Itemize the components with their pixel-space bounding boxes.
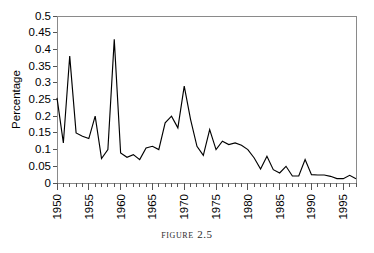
y-tick-label: 0.2 xyxy=(35,110,51,122)
line-chart: 00.050.10.150.20.250.30.350.40.450.5 195… xyxy=(0,0,374,225)
y-tick-label: 0 xyxy=(45,177,51,189)
x-tick-label: 1985 xyxy=(274,194,286,220)
x-tick-label: 1975 xyxy=(210,194,222,220)
x-tick-label: 1990 xyxy=(305,194,317,220)
y-axis-tick-marks xyxy=(53,16,57,183)
y-axis-tick-labels: 00.050.10.150.20.250.30.350.40.450.5 xyxy=(29,10,52,189)
x-tick-label: 1980 xyxy=(242,194,254,220)
x-tick-label: 1960 xyxy=(115,194,127,220)
y-tick-label: 0.5 xyxy=(35,10,51,22)
y-tick-label: 0.15 xyxy=(29,126,51,138)
x-tick-label: 1970 xyxy=(178,194,190,220)
x-axis-tick-labels: 1950195519601965197019751980198519901995 xyxy=(51,194,349,220)
y-tick-label: 0.25 xyxy=(29,93,51,105)
y-axis-title: Percentage xyxy=(10,70,22,129)
data-series-line xyxy=(57,39,356,178)
y-tick-label: 0.05 xyxy=(29,160,51,172)
chart-plot-area: 00.050.10.150.20.250.30.350.40.450.5 195… xyxy=(0,0,374,225)
figure-container: 00.050.10.150.20.250.30.350.40.450.5 195… xyxy=(0,0,374,253)
x-tick-label: 1995 xyxy=(337,194,349,220)
x-tick-label: 1955 xyxy=(83,194,95,220)
y-tick-label: 0.3 xyxy=(35,76,51,88)
x-tick-label: 1965 xyxy=(146,194,158,220)
y-tick-label: 0.4 xyxy=(35,43,52,55)
y-tick-label: 0.45 xyxy=(29,26,51,38)
y-tick-label: 0.1 xyxy=(35,143,51,155)
figure-caption: Figure 2.5 xyxy=(0,228,374,240)
figure-caption-text: Figure 2.5 xyxy=(161,228,212,240)
y-tick-label: 0.35 xyxy=(29,60,51,72)
x-tick-label: 1950 xyxy=(51,194,63,220)
x-axis-tick-marks xyxy=(57,183,356,190)
